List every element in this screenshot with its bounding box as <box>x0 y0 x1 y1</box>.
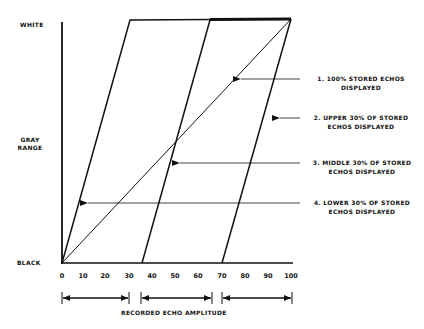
y-label-white: WHITE <box>20 21 44 29</box>
legend-4-line1: 4. LOWER 30% OF STORED <box>306 198 418 207</box>
range-bar-70-100 <box>222 292 292 304</box>
legend-2-line2: ECHOS DISPLAYED <box>306 122 416 131</box>
x-tick-50: 50 <box>170 272 179 280</box>
legend-1-line2: DISPLAYED <box>306 83 416 92</box>
x-tick-60: 60 <box>193 272 202 280</box>
range-bar-35-65 <box>141 292 212 304</box>
x-tick-100: 100 <box>284 272 298 280</box>
x-tick-80: 80 <box>240 272 249 280</box>
y-label-gray-range: GRAY RANGE <box>15 136 45 152</box>
legend-3-line1: 3. MIDDLE 30% OF STORED <box>306 158 418 167</box>
legend-1-line1: 1. 100% STORED ECHOS <box>306 74 416 83</box>
legend-item-3: 3. MIDDLE 30% OF STORED ECHOS DISPLAYED <box>306 158 418 176</box>
y-label-gray: GRAY <box>15 136 45 144</box>
y-label-black: BLACK <box>17 259 41 267</box>
legend-item-2: 2. UPPER 30% OF STORED ECHOS DISPLAYED <box>306 113 416 131</box>
range-bar-0-30 <box>62 292 129 304</box>
x-tick-10: 10 <box>78 272 87 280</box>
x-tick-70: 70 <box>217 272 226 280</box>
x-tick-0: 0 <box>60 272 65 280</box>
x-tick-90: 90 <box>263 272 272 280</box>
white-saturation-segment <box>210 19 291 20</box>
x-axis-label: RECORDED ECHO AMPLITUDE <box>121 309 227 317</box>
x-tick-40: 40 <box>147 272 156 280</box>
legend-3-line2: ECHOS DISPLAYED <box>306 167 418 176</box>
x-tick-20: 20 <box>100 272 109 280</box>
legend-2-line1: 2. UPPER 30% OF STORED <box>306 113 416 122</box>
y-label-range: RANGE <box>15 144 45 152</box>
curve-middle-30 <box>142 20 210 263</box>
legend-item-4: 4. LOWER 30% OF STORED ECHOS DISPLAYED <box>306 198 418 216</box>
legend-4-line2: ECHOS DISPLAYED <box>306 207 418 216</box>
legend-item-1: 1. 100% STORED ECHOS DISPLAYED <box>306 74 416 92</box>
x-tick-30: 30 <box>124 272 133 280</box>
